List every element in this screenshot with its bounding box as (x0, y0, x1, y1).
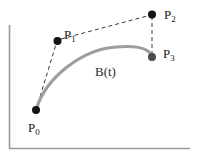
bezier-curve (36, 46, 152, 110)
point-label-p0-sub: 0 (35, 127, 40, 137)
bezier-curve-figure: P0 P1 P2 P3 B(t) (0, 0, 200, 157)
point-label-p1-sub: 1 (71, 34, 76, 44)
control-point-p0[interactable] (32, 106, 40, 114)
point-label-p3: P3 (163, 47, 175, 60)
curve-label-bt: B(t) (95, 65, 116, 78)
control-polygon-group (36, 15, 152, 110)
point-label-p2: P2 (164, 8, 176, 21)
control-point-p1[interactable] (54, 37, 62, 45)
point-label-p1: P1 (64, 28, 76, 41)
point-label-p0: P0 (28, 121, 40, 134)
control-point-p2[interactable] (148, 11, 156, 19)
control-point-p3[interactable] (148, 53, 156, 61)
point-label-p3-sub: 3 (170, 53, 175, 63)
point-label-p2-sub: 2 (171, 14, 176, 24)
